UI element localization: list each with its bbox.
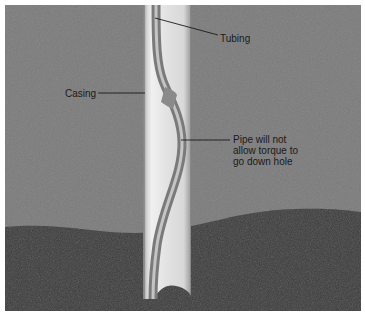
casing-label: Casing — [65, 88, 96, 99]
pipe-note-line-2: allow torque to — [233, 145, 313, 156]
pipe-note-line-3: go down hole — [233, 156, 313, 167]
pipe-note-label: Pipe will not allow torque to go down ho… — [233, 134, 313, 167]
tubing-label: Tubing — [220, 33, 250, 44]
pipe-note-line-1: Pipe will not — [233, 134, 313, 145]
